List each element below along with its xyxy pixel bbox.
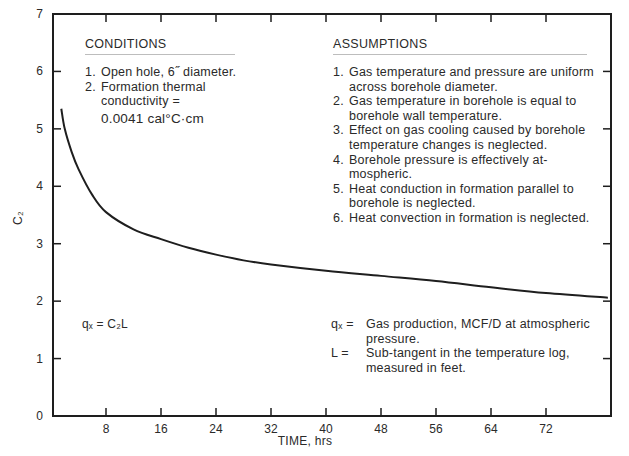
assumptions-item: 5.Heat conduction in formation parallel …	[333, 182, 597, 211]
formula: qₓ = C₂L	[82, 317, 128, 332]
x-axis-title: TIME, hrs	[278, 434, 333, 448]
y-tick-label: 4	[36, 179, 43, 193]
assumptions-item: 4.Borehole pressure is effectively at-mo…	[333, 153, 597, 182]
x-tick-label: 72	[539, 422, 553, 436]
definition-qx: qₓ = Gas production, MCF/D at atmospheri…	[331, 317, 629, 347]
item-text: Heat conduction in formation parallel to…	[349, 182, 574, 211]
item-number: 2.	[85, 80, 96, 95]
conditions-item: 1. Open hole, 6˝ diameter.	[85, 65, 265, 80]
item-text: Effect on gas cooling caused by borehole…	[349, 123, 585, 152]
assumptions-divider	[333, 54, 587, 55]
y-tick-label: 1	[36, 352, 43, 366]
definition-text: Sub-tangent in the temperature log, meas…	[366, 346, 621, 375]
conductivity-value: 0.0041 cal°C·cm	[101, 112, 204, 127]
y-tick-label: 5	[36, 122, 43, 136]
y-tick-label: 6	[36, 64, 43, 78]
assumptions-item: 1.Gas temperature and pressure are unifo…	[333, 65, 597, 94]
conditions-divider	[85, 54, 235, 55]
item-text: Open hole, 6˝ diameter.	[101, 65, 236, 79]
y-tick-label: 0	[36, 409, 43, 423]
x-tick-label: 8	[103, 422, 110, 436]
item-number: 3.	[333, 123, 344, 138]
definition-term: L =	[331, 346, 349, 361]
assumptions-item: 2.Gas temperature in borehole is equal t…	[333, 94, 597, 123]
item-text: Gas temperature in borehole is equal to …	[349, 94, 576, 123]
assumptions-item: 6.Heat convection in formation is neglec…	[333, 211, 597, 226]
assumptions-heading: ASSUMPTIONS	[333, 37, 427, 51]
item-number: 1.	[333, 65, 344, 80]
item-text: Heat convection in formation is neglecte…	[349, 211, 589, 225]
item-text: Formation thermal	[101, 80, 206, 94]
item-number: 4.	[333, 153, 344, 168]
y-axis-title: C₂	[11, 211, 25, 225]
x-tick-label: 16	[154, 422, 168, 436]
item-text: Gas temperature and pressure are uniform…	[349, 65, 594, 94]
y-tick-label: 7	[36, 7, 43, 21]
item-number: 1.	[85, 65, 96, 80]
item-number: 2.	[333, 94, 344, 109]
y-tick-label: 2	[36, 294, 43, 308]
y-tick-label: 3	[36, 237, 43, 251]
item-number: 5.	[333, 182, 344, 197]
conditions-item: 2. Formation thermal conductivity =	[85, 80, 265, 109]
x-tick-label: 32	[264, 422, 278, 436]
x-tick-label: 24	[209, 422, 223, 436]
conditions-heading: CONDITIONS	[85, 37, 166, 51]
definition-L: L = Sub-tangent in the temperature log, …	[331, 346, 629, 376]
x-tick-label: 56	[429, 422, 443, 436]
conditions-list: 1. Open hole, 6˝ diameter. 2. Formation …	[85, 65, 265, 109]
x-tick-label: 64	[484, 422, 498, 436]
assumptions-item: 3.Effect on gas cooling caused by boreho…	[333, 123, 597, 152]
item-number: 6.	[333, 211, 344, 226]
definition-term: qₓ =	[331, 317, 354, 332]
item-text: conductivity =	[101, 94, 180, 108]
x-tick-label: 48	[374, 422, 388, 436]
assumptions-list: 1.Gas temperature and pressure are unifo…	[333, 65, 597, 226]
item-text: Borehole pressure is effectively at-mosp…	[349, 153, 548, 182]
definition-text: Gas production, MCF/D at atmospheric pre…	[366, 317, 621, 346]
